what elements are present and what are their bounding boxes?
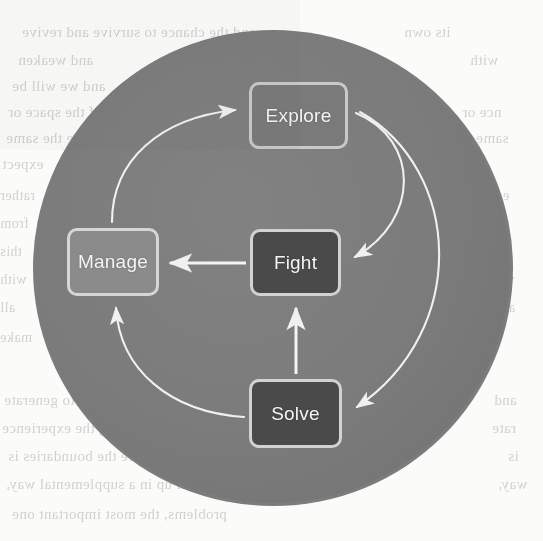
node-manage[interactable]: Manage bbox=[67, 228, 159, 296]
node-manage-label: Manage bbox=[78, 251, 148, 273]
node-solve-label: Solve bbox=[271, 403, 320, 425]
node-explore-label: Explore bbox=[266, 105, 332, 127]
scanned-page: and the chance to survive and reviveand … bbox=[0, 0, 543, 541]
node-fight[interactable]: Fight bbox=[250, 229, 341, 296]
node-solve[interactable]: Solve bbox=[249, 379, 342, 448]
node-fight-label: Fight bbox=[274, 252, 317, 274]
node-explore[interactable]: Explore bbox=[249, 82, 348, 149]
